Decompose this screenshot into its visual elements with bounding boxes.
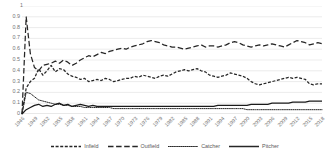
x-tick-label: 1985: [176, 116, 188, 128]
x-tick-label: 1988: [189, 116, 201, 128]
x-tick-label: 2009: [276, 116, 288, 128]
y-axis: 00.10.20.30.40.50.60.70.80.91: [0, 0, 22, 120]
x-tick-label: 1994: [214, 116, 226, 128]
y-tick-label: 0.4: [13, 68, 21, 73]
y-tick-label: 0.1: [13, 100, 21, 105]
series-group: [22, 6, 322, 114]
x-tick-label: 2012: [289, 116, 301, 128]
x-tick-label: 2006: [264, 116, 276, 128]
x-tick-label: 1979: [151, 116, 163, 128]
legend-swatch-infield-icon: [51, 143, 81, 150]
x-tick-label: 1958: [64, 116, 76, 128]
x-tick-label: 2018: [314, 116, 326, 128]
x-tick-label: 1976: [139, 116, 151, 128]
legend-swatch-outfield-icon: [108, 143, 138, 150]
x-axis: 1946194919521955195819611964196719701973…: [22, 114, 322, 140]
legend-item-catcher[interactable]: Catcher: [168, 143, 220, 150]
y-tick-label: 0.5: [13, 57, 21, 62]
plot-area: [22, 6, 322, 114]
y-tick-label: 0.2: [13, 90, 21, 95]
y-tick-label: 0.6: [13, 46, 21, 51]
legend-label: Infield: [84, 143, 98, 149]
legend-label: Outfield: [141, 143, 160, 149]
x-tick-label: 1973: [126, 116, 138, 128]
x-tick-label: 1964: [89, 116, 101, 128]
x-tick-label: 1967: [101, 116, 113, 128]
y-tick-label: 0.9: [13, 14, 21, 19]
legend-item-infield[interactable]: Infield: [51, 143, 98, 150]
x-tick-label: 1949: [26, 116, 38, 128]
legend-label: Pitcher: [262, 143, 279, 149]
x-tick-label: 2015: [301, 116, 313, 128]
line-chart: 00.10.20.30.40.50.60.70.80.91 1946194919…: [0, 0, 330, 155]
series-line-outfield: [22, 17, 322, 114]
x-tick-label: 1955: [51, 116, 63, 128]
x-tick-label: 1961: [76, 116, 88, 128]
y-tick-label: 0.8: [13, 25, 21, 30]
legend-swatch-pitcher-icon: [229, 143, 259, 150]
x-tick-label: 1952: [39, 116, 51, 128]
x-tick-label: 2000: [239, 116, 251, 128]
x-tick-label: 1982: [164, 116, 176, 128]
legend-item-pitcher[interactable]: Pitcher: [229, 143, 279, 150]
x-tick-label: 1997: [226, 116, 238, 128]
x-tick-label: 2003: [251, 116, 263, 128]
legend-label: Catcher: [201, 143, 220, 149]
x-tick-label: 1970: [114, 116, 126, 128]
legend-swatch-catcher-icon: [168, 143, 198, 150]
x-tick-label: 1991: [201, 116, 213, 128]
chart-legend: InfieldOutfieldCatcherPitcher: [0, 139, 330, 153]
series-line-pitcher: [22, 101, 322, 114]
legend-item-outfield[interactable]: Outfield: [108, 143, 160, 150]
y-tick-label: 0.3: [13, 79, 21, 84]
y-tick-label: 0.7: [13, 36, 21, 41]
